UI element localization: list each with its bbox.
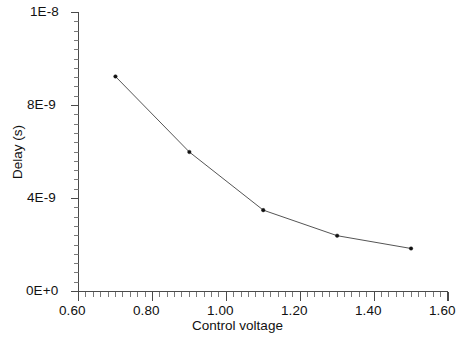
y-axis-title: Delay (s): [10, 125, 25, 179]
y-tick-label-0e-0: 0E+0: [26, 283, 58, 298]
x-tick-label-0-80: 0.80: [133, 303, 160, 318]
data-series-line: [115, 76, 411, 248]
x-axis-minor-ticks: [86, 292, 441, 297]
y-tick-label-4e-9: 4E-9: [27, 190, 56, 205]
x-tick-label-1-40: 1.40: [355, 303, 382, 318]
data-point: [409, 247, 413, 251]
data-point: [335, 234, 339, 238]
x-axis-title: Control voltage: [0, 318, 475, 333]
chart-figure: Delay (s) 1E-8 8E-9 4E-9 0E+0 0.60 0.80 …: [0, 0, 475, 348]
data-series-markers: [114, 75, 413, 251]
y-tick-label-8e-9: 8E-9: [27, 97, 56, 112]
chart-plot-area: Delay (s): [0, 0, 475, 348]
data-point: [188, 150, 192, 154]
x-tick-label-1-60: 1.60: [429, 303, 456, 318]
x-tick-label-1-20: 1.20: [281, 303, 308, 318]
x-tick-label-0-60: 0.60: [59, 303, 86, 318]
y-tick-label-1e-8: 1E-8: [30, 4, 59, 19]
y-axis-minor-ticks: [74, 22, 79, 282]
x-tick-label-1-00: 1.00: [207, 303, 234, 318]
data-point: [114, 75, 118, 79]
data-point: [261, 208, 265, 212]
